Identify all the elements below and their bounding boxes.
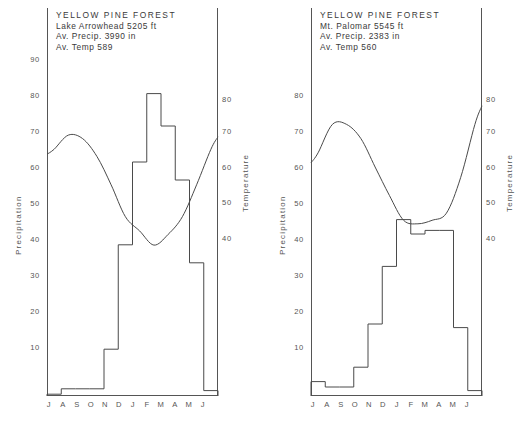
- month-label: O: [84, 400, 98, 409]
- plot-canvas-left: [0, 0, 263, 428]
- month-label: A: [432, 400, 446, 409]
- month-label: J: [196, 400, 210, 409]
- month-label: M: [182, 400, 196, 409]
- month-label: J: [390, 400, 404, 409]
- temperature-curve-right: [311, 106, 482, 224]
- month-label: S: [334, 400, 348, 409]
- plot-canvas-right: [263, 0, 526, 428]
- month-label: J: [42, 400, 56, 409]
- month-label: D: [112, 400, 126, 409]
- month-label: M: [446, 400, 460, 409]
- month-label: S: [70, 400, 84, 409]
- month-label: O: [348, 400, 362, 409]
- month-label: M: [418, 400, 432, 409]
- month-label: D: [376, 400, 390, 409]
- month-label: A: [168, 400, 182, 409]
- precipitation-step-bars-right: [311, 220, 482, 396]
- month-label: F: [404, 400, 418, 409]
- month-label: J: [460, 400, 474, 409]
- precipitation-step-bars-left: [47, 94, 218, 396]
- month-label: A: [56, 400, 70, 409]
- month-label: J: [306, 400, 320, 409]
- month-label: N: [98, 400, 112, 409]
- month-label: F: [140, 400, 154, 409]
- climograph-panel-mt-palomar: YELLOW PINE FOREST Mt. Palomar 5545 ft A…: [263, 0, 526, 428]
- month-label: M: [154, 400, 168, 409]
- climograph-panel-lake-arrowhead: YELLOW PINE FOREST Lake Arrowhead 5205 f…: [0, 0, 263, 428]
- month-label: N: [362, 400, 376, 409]
- month-label: A: [320, 400, 334, 409]
- month-label: J: [126, 400, 140, 409]
